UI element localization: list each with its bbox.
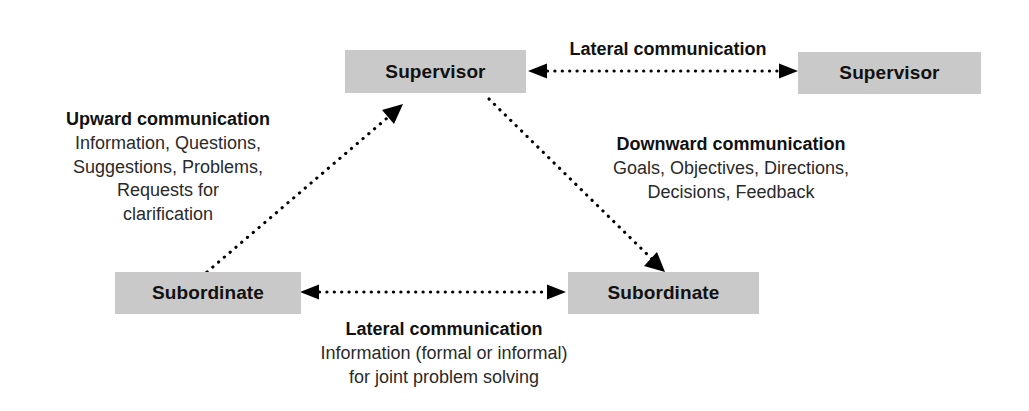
label-upward-communication: Upward communication Information, Questi… xyxy=(18,108,318,226)
node-subordinate-right[interactable]: Subordinate xyxy=(568,272,759,314)
node-subordinate-right-label: Subordinate xyxy=(608,282,720,304)
label-line: Decisions, Feedback xyxy=(562,181,900,204)
label-title: Downward communication xyxy=(562,133,900,156)
node-supervisor-right-label: Supervisor xyxy=(839,62,939,84)
communication-flow-diagram: Supervisor Supervisor Subordinate Subord… xyxy=(0,0,1029,411)
label-lateral-communication-top: Lateral communication xyxy=(531,38,805,61)
label-title: Upward communication xyxy=(18,108,318,131)
label-line: for joint problem solving xyxy=(224,366,664,389)
node-supervisor-left-label: Supervisor xyxy=(385,61,485,83)
connector-lateral-bottom xyxy=(300,285,566,300)
node-subordinate-left-label: Subordinate xyxy=(152,282,264,304)
label-downward-communication: Downward communication Goals, Objectives… xyxy=(562,133,900,204)
label-line: Goals, Objectives, Directions, xyxy=(562,157,900,180)
node-supervisor-left[interactable]: Supervisor xyxy=(345,50,526,93)
label-line: Suggestions, Problems, xyxy=(18,156,318,179)
connector-lateral-top xyxy=(528,64,798,79)
label-line: Requests for xyxy=(18,179,318,202)
label-line: clarification xyxy=(18,203,318,226)
label-title: Lateral communication xyxy=(531,38,805,61)
label-lateral-communication-bottom: Lateral communication Information (forma… xyxy=(224,318,664,389)
node-supervisor-right[interactable]: Supervisor xyxy=(798,52,981,94)
label-line: Information, Questions, xyxy=(18,132,318,155)
label-line: Information (formal or informal) xyxy=(224,342,664,365)
node-subordinate-left[interactable]: Subordinate xyxy=(115,272,301,314)
label-title: Lateral communication xyxy=(224,318,664,341)
